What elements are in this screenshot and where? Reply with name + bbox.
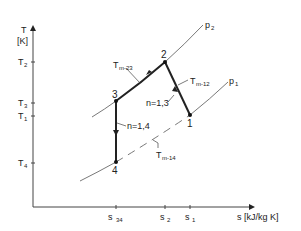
y-tick-t3: T 3 — [18, 98, 35, 109]
svg-text:34: 34 — [116, 217, 123, 223]
svg-text:s: s — [108, 212, 113, 222]
point-1-label: 1 — [187, 118, 193, 129]
n14-label: n=1,4 — [127, 121, 150, 131]
svg-text:4: 4 — [24, 163, 28, 169]
arrow-3-4-icon — [113, 130, 119, 136]
isobar-p1-left — [80, 162, 116, 181]
tm23-label: T m-23 — [113, 60, 133, 71]
y-axis-unit: [K] — [17, 36, 28, 46]
point-2 — [163, 60, 167, 64]
y-tick-t1: T 1 — [18, 111, 35, 122]
svg-text:s: s — [185, 212, 190, 222]
svg-text:m-23: m-23 — [119, 65, 133, 71]
isobar-p1-label: p — [229, 76, 234, 86]
y-tick-t2: T 2 — [18, 57, 35, 68]
svg-text:1: 1 — [24, 116, 28, 122]
y-tick-t4: T 4 — [18, 158, 35, 169]
ts-diagram: T [K] T 2 T 3 T 1 T 4 s 34 s 2 s 1 s [kJ… — [0, 0, 301, 231]
tm14-leader — [153, 140, 158, 143]
x-tick-s2: s 2 — [160, 205, 171, 223]
n13-label: n=1,3 — [146, 98, 169, 108]
x-tick-s34: s 34 — [108, 205, 123, 223]
svg-text:1: 1 — [192, 217, 196, 223]
point-4-label: 4 — [112, 165, 118, 176]
tm12-label: T m-12 — [190, 76, 210, 87]
tm14-label: T m-14 — [156, 150, 176, 161]
svg-text:m-12: m-12 — [196, 81, 210, 87]
y-axis-label: T — [21, 25, 27, 35]
svg-text:2: 2 — [24, 62, 28, 68]
point-1 — [188, 113, 192, 117]
point-2-label: 2 — [161, 49, 167, 60]
isobar-p2-label: p — [205, 20, 210, 30]
svg-text:1: 1 — [235, 81, 239, 87]
point-3-label: 3 — [112, 89, 118, 100]
svg-text:3: 3 — [24, 103, 28, 109]
svg-text:2: 2 — [211, 25, 215, 31]
n13-leader — [168, 95, 174, 102]
svg-text:s: s — [160, 212, 165, 222]
svg-text:m-14: m-14 — [162, 155, 176, 161]
n14-leader — [117, 123, 126, 126]
svg-text:2: 2 — [167, 217, 171, 223]
tm12-leader — [178, 80, 188, 85]
x-tick-s1: s 1 — [185, 205, 196, 223]
x-axis-label: s [kJ/kg K] — [237, 212, 279, 222]
point-4 — [114, 160, 118, 164]
